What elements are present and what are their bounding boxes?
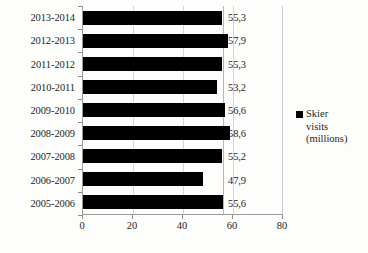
y-axis-tick-label: 2006-2007 [0,169,80,192]
y-axis-tick-label: 2013-2014 [0,6,80,29]
y-axis-tick-label: 2008-2009 [0,122,80,145]
y-axis-tick-label: 2007-2008 [0,145,80,168]
x-tick [132,215,133,219]
bar [83,172,203,186]
bar-value-label: 55,3 [228,52,276,75]
y-axis-tick-label: 2009-2010 [0,99,80,122]
legend-label-line3: (millions) [296,133,366,146]
y-axis-tick-label: 2012-2013 [0,29,80,52]
y-axis-tick-label: 2010-2011 [0,76,80,99]
bar [83,80,217,94]
legend: Skier visits (millions) [296,108,366,146]
legend-swatch-icon [296,111,303,118]
x-axis-tick-label: 80 [277,220,288,231]
x-axis-tick-label: 0 [79,220,84,231]
bar [83,103,225,117]
bar-value-label: 56,6 [228,99,276,122]
x-tick [82,215,83,219]
x-tick [282,215,283,219]
bar [83,149,222,163]
bar [83,195,223,209]
bar [83,57,222,71]
bar-value-label: 55,2 [228,145,276,168]
y-axis-category-labels: 2013-2014 2012-2013 2011-2012 2010-2011 … [0,6,80,215]
bar-value-label: 47,9 [228,169,276,192]
x-tick [232,215,233,219]
bar-value-label: 58,6 [228,122,276,145]
x-axis-labels: 0 20 40 60 80 [82,220,283,236]
skier-visits-bar-chart: 2013-2014 2012-2013 2011-2012 2010-2011 … [0,0,368,253]
bar [83,34,228,48]
legend-label-line2: visits [296,121,366,134]
x-axis-tick-label: 60 [227,220,238,231]
bar-value-label: 57,9 [228,29,276,52]
bar-value-labels: 55,3 57,9 55,3 53,2 56,6 58,6 55,2 47,9 … [228,6,276,215]
x-axis-tick-label: 40 [177,220,188,231]
bar-value-label: 55,6 [228,192,276,215]
y-axis-tick-label: 2011-2012 [0,52,80,75]
legend-item: Skier [296,108,366,121]
bar [83,11,222,25]
bar-value-label: 53,2 [228,76,276,99]
x-axis-tick-label: 20 [127,220,138,231]
bar [83,126,230,140]
legend-label-line1: Skier [306,108,328,121]
bar-value-label: 55,3 [228,6,276,29]
x-tick [182,215,183,219]
y-axis-tick-label: 2005-2006 [0,192,80,215]
